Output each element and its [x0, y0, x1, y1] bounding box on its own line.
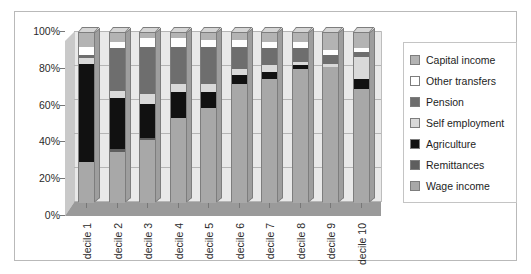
- legend-item-capital-income[interactable]: Capital income: [410, 49, 511, 70]
- bar-side-face: [217, 28, 222, 202]
- bar-side-face: [156, 28, 161, 202]
- bar-segment-self-employment: [232, 69, 247, 76]
- bar-segment-self-employment: [140, 94, 155, 104]
- x-tick-label-decile-9: decile 9: [325, 223, 337, 259]
- bar-segment-other-transfers: [140, 38, 155, 47]
- bar-segment-capital-income: [232, 33, 247, 40]
- bar-stack: [109, 32, 126, 202]
- x-tick-label-decile-2: decile 2: [112, 223, 124, 259]
- bar-decile-5[interactable]: [200, 32, 217, 202]
- bar-segment-capital-income: [354, 33, 369, 48]
- bar-decile-6[interactable]: [231, 32, 248, 202]
- bar-segment-other-transfers: [262, 42, 277, 49]
- x-tick-mark: [208, 203, 209, 208]
- bar-decile-10[interactable]: [353, 32, 370, 202]
- y-tick-label: 40%: [39, 135, 60, 147]
- legend: Capital incomeOther transfersPensionSelf…: [403, 42, 517, 203]
- y-tick-mark: [60, 68, 65, 69]
- bar-segment-self-employment: [110, 91, 125, 98]
- legend-item-label: Other transfers: [426, 75, 496, 87]
- legend-item-label: Pension: [426, 96, 464, 108]
- legend-item-wage-income[interactable]: Wage income: [410, 175, 511, 196]
- bar-segment-self-employment: [201, 84, 216, 93]
- bar-decile-8[interactable]: [292, 32, 309, 202]
- bar-segment-capital-income: [79, 33, 94, 47]
- legend-item-self-employment[interactable]: Self employment: [410, 112, 511, 133]
- bar-decile-3[interactable]: [139, 32, 156, 202]
- bar-decile-7[interactable]: [261, 32, 278, 202]
- legend-swatch-icon: [410, 160, 420, 170]
- bar-side-face: [187, 28, 192, 202]
- bar-side-face: [126, 28, 131, 202]
- bar-segment-self-employment: [171, 84, 186, 93]
- legend-item-pension[interactable]: Pension: [410, 91, 511, 112]
- bar-segment-self-employment: [354, 57, 369, 79]
- y-tick-mark: [60, 105, 65, 106]
- plot-area: 0%20%40%60%80%100% decile 1decile 2decil…: [65, 31, 381, 216]
- x-tick-mark: [178, 203, 179, 208]
- bar-segment-pension: [140, 47, 155, 95]
- bar-decile-1[interactable]: [78, 32, 95, 202]
- x-tick-label-decile-6: decile 6: [234, 223, 246, 259]
- legend-swatch-icon: [410, 97, 420, 107]
- x-tick-mark: [86, 203, 87, 208]
- legend-item-label: Agriculture: [426, 138, 476, 150]
- bar-decile-4[interactable]: [170, 32, 187, 202]
- bar-decile-9[interactable]: [322, 32, 339, 202]
- bar-side-face: [309, 28, 314, 202]
- legend-item-label: Capital income: [426, 54, 495, 66]
- bar-side-face: [370, 28, 375, 202]
- x-tick-mark: [147, 203, 148, 208]
- bar-segment-capital-income: [323, 33, 338, 50]
- legend-swatch-icon: [410, 118, 420, 128]
- bar-segment-other-transfers: [171, 38, 186, 47]
- x-tick-label-decile-3: decile 3: [142, 223, 154, 259]
- y-tick-label: 0%: [45, 209, 60, 221]
- bar-segment-agriculture: [262, 72, 277, 79]
- bar-stack: [353, 32, 370, 202]
- legend-item-remittances[interactable]: Remittances: [410, 154, 511, 175]
- bar-segment-wage-income: [354, 89, 369, 203]
- bar-segment-wage-income: [323, 67, 338, 203]
- x-tick-mark: [239, 203, 240, 208]
- bar-stack: [261, 32, 278, 202]
- x-tick-mark: [330, 203, 331, 208]
- x-tick-mark: [361, 203, 362, 208]
- legend-item-agriculture[interactable]: Agriculture: [410, 133, 511, 154]
- x-tick-label-decile-8: decile 8: [295, 223, 307, 259]
- y-tick-mark: [60, 215, 65, 216]
- bar-decile-2[interactable]: [109, 32, 126, 202]
- bar-segment-pension: [323, 55, 338, 64]
- bar-segment-wage-income: [110, 152, 125, 203]
- bar-side-face: [339, 28, 344, 202]
- bar-segment-wage-income: [79, 162, 94, 203]
- bar-segment-agriculture: [201, 92, 216, 107]
- legend-item-other-transfers[interactable]: Other transfers: [410, 70, 511, 91]
- bar-segment-wage-income: [262, 79, 277, 203]
- bar-segment-wage-income: [201, 108, 216, 203]
- bar-side-face: [278, 28, 283, 202]
- bar-segment-other-transfers: [293, 42, 308, 49]
- bar-stack: [139, 32, 156, 202]
- legend-swatch-icon: [410, 181, 420, 191]
- bar-stack: [78, 32, 95, 202]
- bar-segment-agriculture: [110, 98, 125, 149]
- y-tick-mark: [60, 31, 65, 32]
- bar-segment-self-employment: [262, 65, 277, 72]
- bar-segment-agriculture: [79, 64, 94, 163]
- bar-segment-pension: [110, 48, 125, 91]
- x-tick-label-decile-7: decile 7: [264, 223, 276, 259]
- bar-segment-wage-income: [171, 118, 186, 203]
- legend-swatch-icon: [410, 55, 420, 65]
- legend-swatch-icon: [410, 139, 420, 149]
- x-tick-label-decile-1: decile 1: [81, 223, 93, 259]
- y-tick-label: 100%: [33, 25, 60, 37]
- bar-segment-wage-income: [232, 84, 247, 203]
- bar-segment-pension: [262, 48, 277, 65]
- bar-stack: [170, 32, 187, 202]
- bar-segment-wage-income: [293, 69, 308, 203]
- bar-segment-other-transfers: [110, 42, 125, 49]
- bar-segment-pension: [201, 47, 216, 84]
- bar-segment-wage-income: [140, 140, 155, 203]
- bar-segment-capital-income: [262, 33, 277, 42]
